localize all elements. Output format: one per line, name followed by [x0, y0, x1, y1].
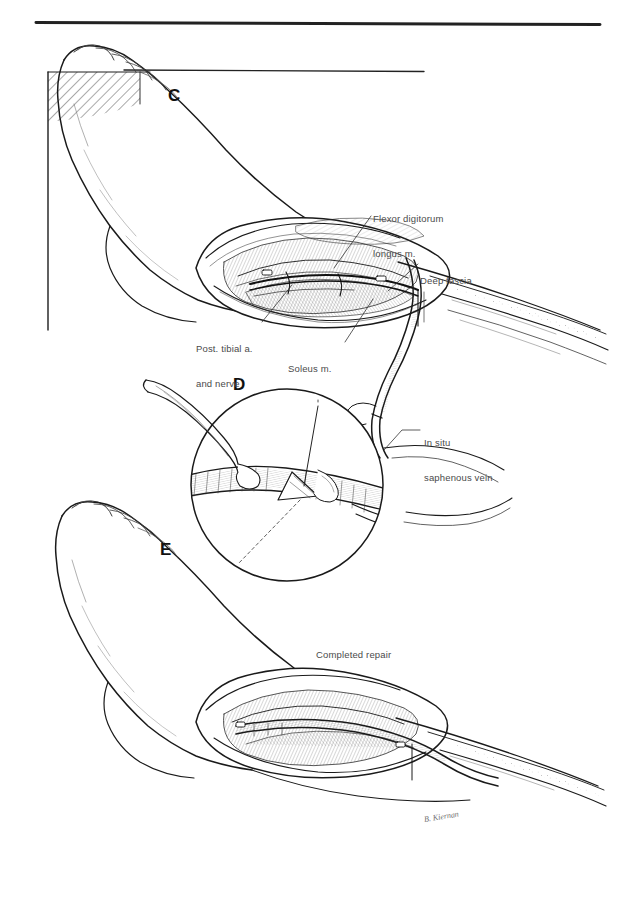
label-line-1: In situ	[424, 437, 493, 449]
panel-letter-c: C	[168, 86, 181, 106]
label-post-tibial-a-and-nerve: Post. tibial a. and nerve	[196, 320, 253, 412]
label-completed-repair: Completed repair	[316, 626, 391, 684]
label-in-situ-saphenous-vein: In situ saphenous vein	[424, 414, 493, 506]
label-line-1: Deep fascia	[420, 275, 472, 287]
top-rule	[36, 23, 600, 25]
label-line-1: Flexor digitorum	[373, 213, 444, 225]
label-deep-fascia: Deep fascia	[420, 252, 472, 310]
label-line-1: Completed repair	[316, 649, 391, 661]
panel-letter-e: E	[160, 540, 172, 560]
label-line-1: Post. tibial a.	[196, 343, 253, 355]
illustration-canvas	[0, 0, 621, 897]
pointer-rule	[124, 70, 424, 72]
figure-plate: C D E Flexor digitorum longus m. Deep fa…	[0, 0, 621, 897]
label-line-1: Soleus m.	[288, 363, 332, 375]
label-soleus-m: Soleus m.	[288, 340, 332, 398]
label-line-2: and nerve	[196, 378, 253, 390]
label-line-2: saphenous vein	[424, 472, 493, 484]
table-edge-hatching	[48, 72, 150, 330]
